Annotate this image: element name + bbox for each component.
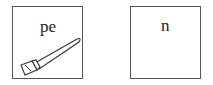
panel-right: n — [130, 6, 201, 79]
pencil-icon — [15, 27, 83, 77]
panel-right-label: n — [161, 17, 170, 34]
panel-left: pe — [12, 6, 83, 79]
